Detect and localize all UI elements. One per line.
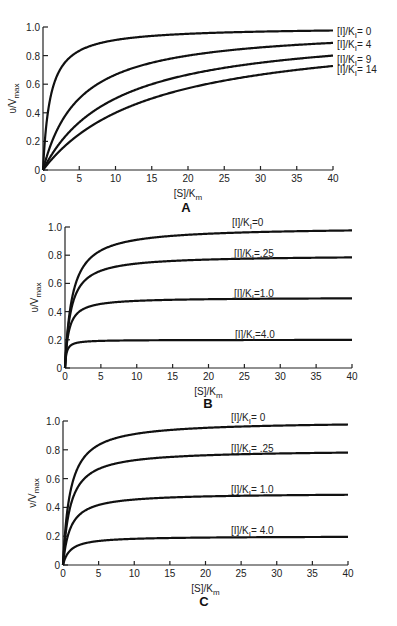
y-tick-label: 0	[54, 560, 60, 571]
x-tick-label: 15	[167, 371, 179, 382]
x-tick-label: 30	[255, 173, 267, 184]
x-tick-label: 0	[60, 568, 66, 579]
x-tick-label: 10	[131, 371, 143, 382]
panel-label-c: C	[199, 594, 209, 609]
series-label: [I]/KI= 0	[231, 412, 266, 426]
y-tick-label: 0.6	[26, 79, 40, 90]
y-tick-label: 0.8	[48, 250, 62, 261]
panel-label-b: B	[203, 396, 212, 411]
x-tick-label: 35	[311, 371, 323, 382]
x-tick-label: 20	[203, 371, 215, 382]
y-tick-label: 0.4	[48, 307, 62, 318]
data-series-line	[43, 66, 333, 170]
y-tick-label: 1.0	[48, 222, 62, 233]
chart-panel-b: 051015202530354000.20.40.60.81.0[S]/Kmυ/…	[29, 217, 358, 400]
y-tick-label: 0.8	[46, 445, 60, 456]
x-tick-label: 10	[129, 568, 141, 579]
y-axis-label: υ/Vmax	[29, 282, 43, 312]
x-tick-label: 15	[146, 173, 158, 184]
series-label: [I]/KI= 14	[337, 64, 377, 78]
y-tick-label: 0.2	[46, 531, 60, 542]
panel-label-a: A	[181, 200, 191, 215]
y-tick-label: 0.2	[26, 136, 40, 147]
x-tick-label: 5	[76, 173, 82, 184]
x-tick-label: 30	[271, 568, 283, 579]
y-tick-label: 0.4	[46, 502, 60, 513]
x-tick-label: 0	[62, 371, 68, 382]
x-tick-label: 5	[98, 371, 104, 382]
figure-kinetics-panels: 051015202530354000.20.40.60.81.0[S]/Kmυ/…	[0, 0, 397, 626]
y-tick-label: 0.2	[48, 335, 62, 346]
data-series-line	[65, 340, 352, 368]
y-tick-label: 0.6	[46, 474, 60, 485]
y-tick-label: 1.0	[26, 22, 40, 33]
y-tick-label: 0.4	[26, 108, 40, 119]
series-label: [I]/KI= 0	[337, 26, 372, 40]
x-tick-label: 30	[275, 371, 287, 382]
data-series-line	[63, 453, 348, 565]
data-series-line	[43, 56, 333, 170]
series-label: [I]/KI= 4	[337, 39, 372, 53]
x-tick-label: 20	[182, 173, 194, 184]
data-series-line	[65, 257, 352, 368]
chart-panel-a: 051015202530354000.20.40.60.81.0[S]/Kmυ/…	[7, 22, 377, 202]
x-tick-label: 35	[291, 173, 303, 184]
data-series-line	[63, 537, 348, 565]
y-tick-label: 0.6	[48, 278, 62, 289]
x-tick-label: 25	[219, 173, 231, 184]
chart-panel-c: 051015202530354000.20.40.60.81.0[S]/Kmν/…	[27, 412, 354, 597]
y-tick-label: 0	[56, 363, 62, 374]
x-tick-label: 0	[40, 173, 46, 184]
series-label: [I]/KI=0	[232, 217, 264, 231]
x-tick-label: 35	[307, 568, 319, 579]
x-tick-label: 40	[342, 568, 354, 579]
y-axis-label: υ/Vmax	[7, 83, 21, 113]
series-label: [I]/KI=.25	[234, 248, 274, 262]
x-tick-label: 15	[164, 568, 176, 579]
data-series-line	[43, 30, 333, 170]
data-series-line	[63, 495, 348, 565]
x-tick-label: 25	[236, 568, 248, 579]
x-tick-label: 5	[96, 568, 102, 579]
x-tick-label: 25	[239, 371, 251, 382]
y-tick-label: 0.8	[26, 51, 40, 62]
y-tick-label: 1.0	[46, 416, 60, 427]
x-tick-label: 40	[327, 173, 339, 184]
data-series-line	[65, 298, 352, 368]
x-tick-label: 20	[200, 568, 212, 579]
data-series-line	[43, 43, 333, 170]
x-tick-label: 40	[346, 371, 358, 382]
y-axis-label: ν/Vmax	[27, 478, 41, 508]
x-tick-label: 10	[110, 173, 122, 184]
y-tick-label: 0	[34, 165, 40, 176]
